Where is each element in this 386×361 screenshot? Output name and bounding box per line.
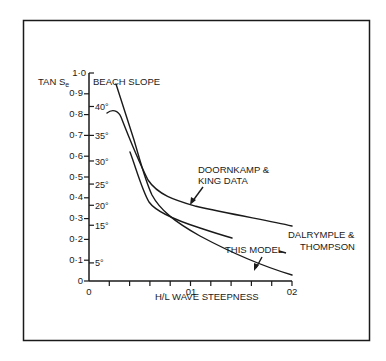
x-tick-label: 02 xyxy=(287,286,298,297)
angle-label: 30° xyxy=(95,157,109,167)
y-tick-label: 0·3 xyxy=(69,212,83,223)
angle-label: 35° xyxy=(95,131,109,141)
y-axis-title: TAN Se xyxy=(38,76,69,88)
doornkamp-label: DOORNKAMP & xyxy=(198,164,270,175)
y-tick-label: 0·1 xyxy=(69,254,83,265)
y-tick-label: 0·2 xyxy=(69,233,83,244)
y-tick-labels: 0 0·1 0·2 0·3 0·4 0·5 0·6 0·7 0·8 0·9 1·… xyxy=(69,67,86,286)
x-tick-label: 0 xyxy=(86,286,91,297)
y-tick-label: 1·0 xyxy=(72,67,86,78)
y-tick-label: 0·4 xyxy=(69,191,83,202)
y-tick-label: 0·8 xyxy=(69,108,83,119)
angle-label: 20° xyxy=(95,201,109,211)
angle-label: 40° xyxy=(95,102,109,112)
angle-label: 25° xyxy=(95,180,109,190)
y-tick-label: 0·9 xyxy=(69,87,83,98)
angle-label: 15° xyxy=(95,221,109,231)
dalrymple-label: DALRYMPLE & xyxy=(288,229,355,240)
dalrymple-label: THOMPSON xyxy=(300,241,355,252)
x-axis-title: H/L WAVE STEEPNESS xyxy=(155,291,259,302)
doornkamp-label: KING DATA xyxy=(198,175,248,186)
chart-figure: 0 0·1 0·2 0·3 0·4 0·5 0·6 0·7 0·8 0·9 1·… xyxy=(0,0,386,361)
y-tick-label: 0 xyxy=(78,275,83,286)
y-tick-label: 0·5 xyxy=(69,171,83,182)
x-tick-label: 01 xyxy=(186,286,197,297)
beach-slope-title: BEACH SLOPE xyxy=(93,76,160,87)
annotations: DOORNKAMP & KING DATA DALRYMPLE & THOMPS… xyxy=(198,164,355,255)
y-tick-label: 0·6 xyxy=(69,150,83,161)
angle-labels: 5° 15° 20° 25° 30° 35° 40° xyxy=(95,102,109,268)
model-label: THIS MODEL xyxy=(225,244,283,255)
angle-label: 5° xyxy=(95,258,104,268)
y-tick-label: 0·7 xyxy=(69,129,83,140)
